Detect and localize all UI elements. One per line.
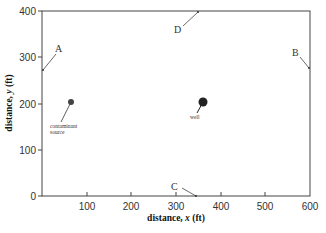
x-tick-300: 300	[168, 201, 185, 212]
point-a-label: A	[55, 43, 63, 54]
well-marker	[199, 98, 208, 107]
y-tick-300: 300	[19, 52, 36, 63]
y-tick-200: 200	[19, 99, 36, 110]
x-axis-title: distance, x (ft)	[147, 213, 205, 224]
y-tick-100: 100	[19, 145, 36, 156]
point-d: D	[174, 11, 199, 35]
x-axis: 100 200 300 400 500 600	[79, 192, 319, 212]
contaminant-source-label-2: source	[50, 129, 65, 135]
point-c-label: C	[171, 181, 178, 192]
x-tick-100: 100	[79, 201, 96, 212]
y-tick-0: 0	[30, 191, 36, 202]
site-diagram: 400 300 200 100 0 100 200 300 400 500 60…	[0, 0, 326, 233]
point-b-label: B	[292, 47, 299, 58]
point-a: A	[42, 43, 63, 71]
point-c: C	[171, 181, 197, 197]
well: well	[190, 98, 208, 121]
contaminant-source-marker	[68, 99, 74, 105]
y-axis: 400 300 200 100 0	[19, 6, 42, 202]
x-tick-200: 200	[123, 201, 140, 212]
y-tick-400: 400	[19, 6, 36, 17]
y-axis-title: distance, y (ft)	[4, 74, 15, 131]
x-tick-600: 600	[302, 201, 319, 212]
x-tick-500: 500	[257, 201, 274, 212]
well-label: well	[190, 114, 200, 120]
plot-boundary	[42, 11, 310, 196]
contaminant-source: contaminant source	[50, 99, 78, 135]
point-d-label: D	[174, 24, 181, 35]
point-b: B	[292, 47, 310, 69]
x-tick-400: 400	[213, 201, 230, 212]
